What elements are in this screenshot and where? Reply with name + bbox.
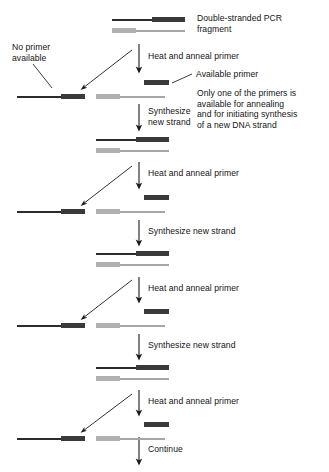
separated-complementary-block bbox=[96, 323, 120, 328]
label-available-primer: Available primer bbox=[196, 69, 258, 80]
separated-template-block bbox=[61, 436, 85, 441]
separation-arrows bbox=[83, 50, 132, 431]
template-primer-block bbox=[136, 137, 169, 142]
pcr-diagram: Double-stranded PCR fragment Heat and an… bbox=[0, 0, 329, 472]
step-label-7: Heat and anneal primer bbox=[148, 396, 239, 407]
free-primer-block bbox=[144, 422, 169, 427]
free-primer-block bbox=[144, 309, 169, 314]
template-primer-block bbox=[136, 251, 169, 256]
step-label-1: Heat and anneal primer bbox=[148, 51, 239, 62]
separated-template-block bbox=[61, 94, 85, 99]
separated-complementary-block bbox=[96, 209, 120, 214]
step-label-4: Synthesize new strand bbox=[148, 226, 236, 237]
label-no-primer-available: No primer available bbox=[12, 42, 50, 63]
separated-complementary-block bbox=[96, 94, 120, 99]
label-double-stranded-fragment: Double-stranded PCR fragment bbox=[197, 13, 282, 34]
complementary-primer-block bbox=[96, 376, 120, 381]
separated-template-block bbox=[61, 323, 85, 328]
step-label-3: Heat and anneal primer bbox=[148, 168, 239, 179]
template-primer-block bbox=[136, 365, 169, 370]
template-primer-block bbox=[152, 17, 185, 22]
step-label-8: Continue bbox=[148, 444, 183, 455]
separated-complementary-block bbox=[96, 436, 120, 441]
separated-template-block bbox=[61, 209, 85, 214]
step-label-6: Synthesize new strand bbox=[148, 340, 236, 351]
complementary-primer-block bbox=[96, 262, 120, 267]
label-only-one-primer: Only one of the primers is available for… bbox=[197, 88, 297, 130]
step-label-5: Heat and anneal primer bbox=[148, 283, 239, 294]
complementary-primer-block bbox=[96, 148, 120, 153]
step-label-2: Synthesize new strand bbox=[148, 106, 191, 127]
free-primer-block bbox=[144, 195, 169, 200]
complementary-primer-block bbox=[112, 28, 136, 33]
free-primer-block bbox=[144, 80, 169, 85]
